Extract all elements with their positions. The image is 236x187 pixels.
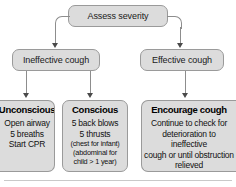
- node-conscious-note2: (abdominal for: [70, 148, 119, 157]
- node-ineffective-cough[interactable]: Ineffective cough: [12, 49, 100, 71]
- connector-effective-to-encourage: [185, 71, 186, 94]
- bottom-divider: [4, 180, 232, 181]
- connector-root-to-ineffective-stem: [55, 27, 56, 44]
- node-unconscious-line1: Open airway: [4, 118, 50, 129]
- arrowhead-ineffective-to-unconscious: [23, 93, 29, 98]
- node-assess-severity-label: Assess severity: [87, 11, 148, 21]
- connector-ineffective-to-conscious: [90, 71, 91, 94]
- connector-root-to-ineffective: [55, 16, 70, 29]
- node-effective-cough[interactable]: Effective cough: [140, 49, 224, 71]
- node-encourage-cough-body: Continue to check for deterioration to i…: [142, 118, 236, 171]
- node-conscious-line2: 5 thrusts: [70, 129, 119, 140]
- node-effective-cough-label: Effective cough: [152, 55, 212, 65]
- arrowhead-root-to-effective: [177, 43, 183, 48]
- node-encourage-cough-line4: relieved: [144, 160, 234, 171]
- arrowhead-effective-to-encourage: [182, 93, 188, 98]
- node-assess-severity[interactable]: Assess severity: [68, 5, 168, 27]
- node-conscious-note1: (chest for infant): [70, 139, 119, 148]
- node-unconscious-heading: Unconscious: [0, 104, 55, 115]
- node-encourage-cough[interactable]: Encourage cough Continue to check for de…: [141, 100, 236, 172]
- arrowhead-root-to-ineffective: [52, 43, 58, 48]
- node-unconscious[interactable]: Unconscious Open airway 5 breaths Start …: [0, 100, 55, 172]
- node-unconscious-line2: 5 breaths: [4, 129, 50, 140]
- flowchart-canvas: Assess severity Ineffective cough Effect…: [0, 0, 236, 187]
- node-conscious-heading: Conscious: [72, 104, 118, 115]
- node-conscious-line1: 5 back blows: [70, 118, 119, 129]
- node-encourage-cough-line1: Continue to check for: [144, 118, 234, 129]
- node-unconscious-line3: Start CPR: [4, 139, 50, 150]
- node-encourage-cough-line2: deterioration to ineffective: [144, 129, 234, 150]
- node-ineffective-cough-label: Ineffective cough: [23, 55, 89, 65]
- node-conscious[interactable]: Conscious 5 back blows 5 thrusts (chest …: [62, 100, 128, 172]
- connector-ineffective-to-unconscious: [26, 71, 27, 94]
- connector-root-to-effective-stem: [180, 27, 181, 44]
- node-conscious-note3: child > 1 year): [70, 157, 119, 166]
- arrowhead-ineffective-to-conscious: [87, 93, 93, 98]
- node-unconscious-body: Open airway 5 breaths Start CPR: [2, 118, 52, 150]
- node-encourage-cough-heading: Encourage cough: [151, 104, 227, 115]
- node-encourage-cough-line3: cough or until obstruction: [144, 150, 234, 161]
- node-conscious-body: 5 back blows 5 thrusts (chest for infant…: [68, 118, 121, 166]
